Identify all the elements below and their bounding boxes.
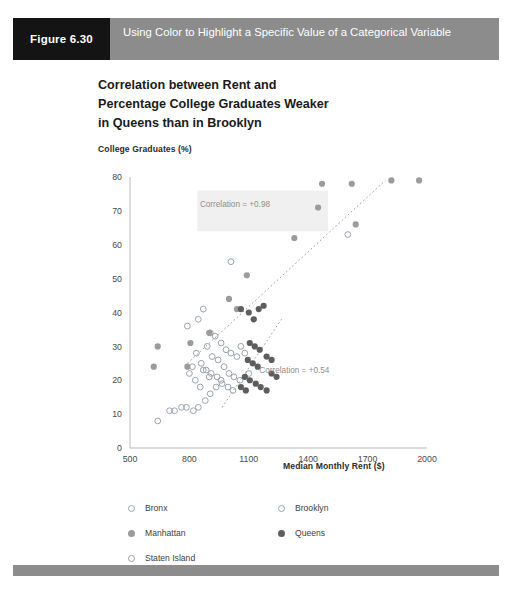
data-point-queens [247,377,253,383]
data-point-bronx [167,408,173,414]
data-point-queens [255,364,261,370]
data-point-queens [268,370,274,376]
y-tick-label: 20 [112,375,122,385]
annotation-highlight-band [197,191,328,232]
data-point-brooklyn [219,381,225,387]
y-tick-label: 50 [112,274,122,284]
data-point-manhattan [206,330,212,336]
y-axis-title: College Graduates (%) [98,144,192,154]
data-point-brooklyn [218,340,224,346]
data-point-queens [243,387,249,393]
annotation-manhattan: Correlation = +0.98 [200,200,271,209]
data-point-bronx [192,377,198,383]
x-tick-label: 1100 [239,454,258,464]
data-point-manhattan [234,306,240,312]
data-point-bronx [155,418,161,424]
data-point-bronx [179,404,185,410]
data-point-queens [268,357,274,363]
data-point-brooklyn [228,350,234,356]
data-point-brooklyn [209,354,215,360]
data-point-bronx [207,391,213,397]
data-point-queens [256,306,262,312]
annotation-queens: Correlation = +0.54 [259,366,330,375]
data-point-queens [258,384,264,390]
legend-label: Bronx [145,503,167,513]
data-point-queens [246,309,252,315]
data-point-manhattan [388,177,394,183]
y-tick-label: 80 [112,172,122,182]
x-axis-title: Median Monthly Rent ($) [283,461,385,471]
data-point-staten-island [345,232,351,238]
data-point-manhattan [315,204,321,210]
data-point-manhattan [349,181,355,187]
data-point-queens [250,360,256,366]
data-point-queens [252,343,258,349]
data-point-bronx [197,384,203,390]
data-point-brooklyn [225,384,231,390]
data-point-brooklyn [204,343,210,349]
figure-header-bar: Figure 6.30 Using Color to Highlight a S… [13,18,499,60]
trendline-queens [222,319,281,407]
data-point-brooklyn [195,316,201,322]
data-point-bronx [195,404,201,410]
data-point-queens [238,306,244,312]
legend-label: Staten Island [145,553,195,563]
chart-title-line-3: in Queens than in Brooklyn [98,114,428,133]
data-point-manhattan [319,181,325,187]
open-circle-icon [128,505,135,512]
y-tick-label: 0 [117,443,122,453]
figure-page: Figure 6.30 Using Color to Highlight a S… [0,0,512,591]
data-point-bronx [200,367,206,373]
data-point-brooklyn [221,364,227,370]
legend-item-bronx[interactable]: Bronx [128,503,278,513]
data-point-manhattan [353,221,359,227]
legend-item-queens[interactable]: Queens [278,528,428,538]
data-point-brooklyn [208,371,214,377]
data-point-manhattan [155,343,161,349]
data-point-brooklyn [238,343,244,349]
data-point-manhattan [291,235,297,241]
y-tick-label: 60 [112,240,122,250]
data-point-brooklyn [223,347,229,353]
data-point-bronx [190,408,196,414]
y-tick-label: 40 [112,308,122,318]
open-circle-icon [278,505,285,512]
data-point-queens [247,340,253,346]
data-point-brooklyn [246,371,252,377]
data-point-brooklyn [234,354,240,360]
data-point-brooklyn [200,306,206,312]
data-point-staten-island [228,259,234,265]
data-point-bronx [213,384,219,390]
data-point-queens [261,303,267,309]
data-point-brooklyn [214,374,220,380]
legend-item-staten-island[interactable]: Staten Island [128,553,278,563]
chart-title-line-1: Correlation between Rent and [98,76,428,95]
data-point-queens [264,387,270,393]
legend-label: Manhattan [145,528,186,538]
data-point-manhattan [184,364,190,370]
data-point-brooklyn [198,360,204,366]
data-point-bronx [218,377,224,383]
data-point-queens [253,381,259,387]
figure-footer-bar [13,565,499,576]
data-point-brooklyn [193,350,199,356]
trendline-manhattan [187,180,385,363]
legend-item-manhattan[interactable]: Manhattan [128,528,278,538]
data-point-queens [238,384,244,390]
data-point-brooklyn [189,364,195,370]
data-point-brooklyn [215,357,221,363]
legend-item-brooklyn[interactable]: Brooklyn [278,503,428,513]
y-tick-label: 70 [112,206,122,216]
data-point-bronx [184,404,190,410]
data-point-queens [245,357,251,363]
data-point-manhattan [226,296,232,302]
data-point-brooklyn [185,323,191,329]
figure-number-tag: Figure 6.30 [13,18,110,60]
y-tick-label: 30 [112,342,122,352]
data-point-brooklyn [237,377,243,383]
filled-circle-icon [278,530,285,537]
legend-label: Brooklyn [295,503,328,513]
data-point-queens [242,374,248,380]
figure-caption: Using Color to Highlight a Specific Valu… [110,18,499,60]
data-point-brooklyn [231,374,237,380]
